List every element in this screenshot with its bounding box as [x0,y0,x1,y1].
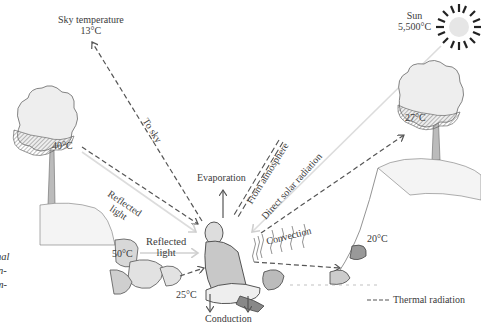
thermal-radiation-to-rock [254,262,340,268]
rock-right-temp: 20°C [367,233,388,244]
thermal-radiation-rocks [180,268,204,276]
left-tree-temp: 40°C [52,140,73,151]
right-tree-temp: 27°C [405,112,426,123]
ground-temp: 25°C [176,289,197,300]
conduction-label: Conduction [205,313,252,323]
caption-fragment-1: nal [0,250,9,264]
legend-thermal-radiation: Thermal radiation [393,294,465,305]
person-illustration [205,222,264,312]
evaporation-label: Evaporation [197,172,246,183]
right-tree-illustration [340,60,481,270]
caption-fragment-3: m- [0,278,7,292]
sun-icon [436,4,481,50]
reflected-light-lower-label: Reflected light [146,236,186,258]
rock-left-temp: 50°C [112,248,133,259]
heat-exchange-diagram: Sky temperature 13°C Sun 5,500°C 40°C 27… [0,0,481,323]
caption-fragment-2: n- [0,264,7,278]
sky-label: Sky temperature 13°C [58,14,124,36]
sun-label: Sun 5,500°C [398,10,431,32]
right-rocks-illustration [263,245,380,290]
